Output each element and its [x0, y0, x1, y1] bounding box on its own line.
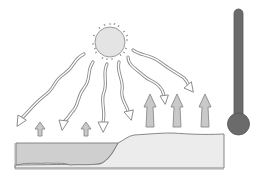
- thermometer-icon: [228, 9, 250, 135]
- heat-arrow-up-icon: [35, 122, 45, 136]
- ground: [15, 133, 224, 169]
- heat-arrow-up-icon: [171, 94, 183, 127]
- heat-arrow-up-icon: [199, 94, 211, 127]
- ray-arrow-icon: [17, 54, 84, 126]
- sun-icon: [92, 23, 128, 60]
- ray-arrow-icon: [98, 64, 108, 132]
- land-heat-arrows: [144, 94, 211, 127]
- diagram-canvas: [0, 0, 262, 183]
- heat-arrow-up-icon: [81, 122, 91, 136]
- diagram-svg: [0, 0, 262, 183]
- water: [16, 143, 118, 165]
- ray-arrow-icon: [118, 62, 133, 120]
- ray-arrow-icon: [133, 50, 193, 92]
- incoming-rays: [17, 50, 193, 132]
- heat-arrow-up-icon: [144, 94, 156, 127]
